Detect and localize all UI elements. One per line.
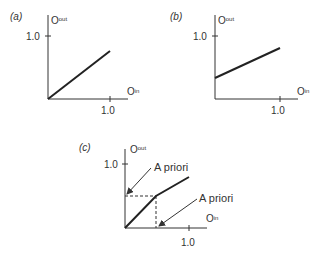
x-axis-label: Oin bbox=[206, 213, 218, 224]
data-line bbox=[125, 177, 189, 228]
y-tick-label: 1.0 bbox=[193, 31, 207, 42]
data-line bbox=[215, 48, 280, 78]
arrow-icon bbox=[127, 168, 151, 194]
y-axis-label: Oout bbox=[130, 144, 146, 155]
y-axis-label: Oout bbox=[218, 15, 234, 26]
data-line bbox=[48, 51, 110, 99]
x-axis-label: Oin bbox=[297, 86, 309, 97]
figure: (a) 1.0 1.0 Oout Oin (b) 1.0 1.0 Oout Oi… bbox=[0, 0, 319, 256]
x-axis-label: Oin bbox=[127, 86, 139, 97]
y-tick-label: 1.0 bbox=[104, 159, 118, 170]
panel-label: (c) bbox=[79, 142, 91, 153]
panel-a: (a) 1.0 1.0 Oout Oin bbox=[10, 11, 139, 116]
panel-b: (b) 1.0 1.0 Oout Oin bbox=[170, 11, 309, 116]
x-tick-label: 1.0 bbox=[101, 105, 115, 116]
panel-label: (a) bbox=[10, 11, 22, 22]
annotation-a-priori-x: A priori bbox=[199, 192, 233, 204]
panel-label: (b) bbox=[170, 11, 182, 22]
y-tick-label: 1.0 bbox=[26, 31, 40, 42]
annotation-a-priori-y: A priori bbox=[154, 161, 188, 173]
x-tick-label: 1.0 bbox=[271, 105, 285, 116]
y-axis-label: Oout bbox=[51, 15, 67, 26]
panel-c: (c) 1.0 1.0 Oout Oin A priori A priori bbox=[79, 142, 233, 248]
x-tick-label: 1.0 bbox=[181, 237, 195, 248]
arrow-icon bbox=[159, 199, 197, 226]
